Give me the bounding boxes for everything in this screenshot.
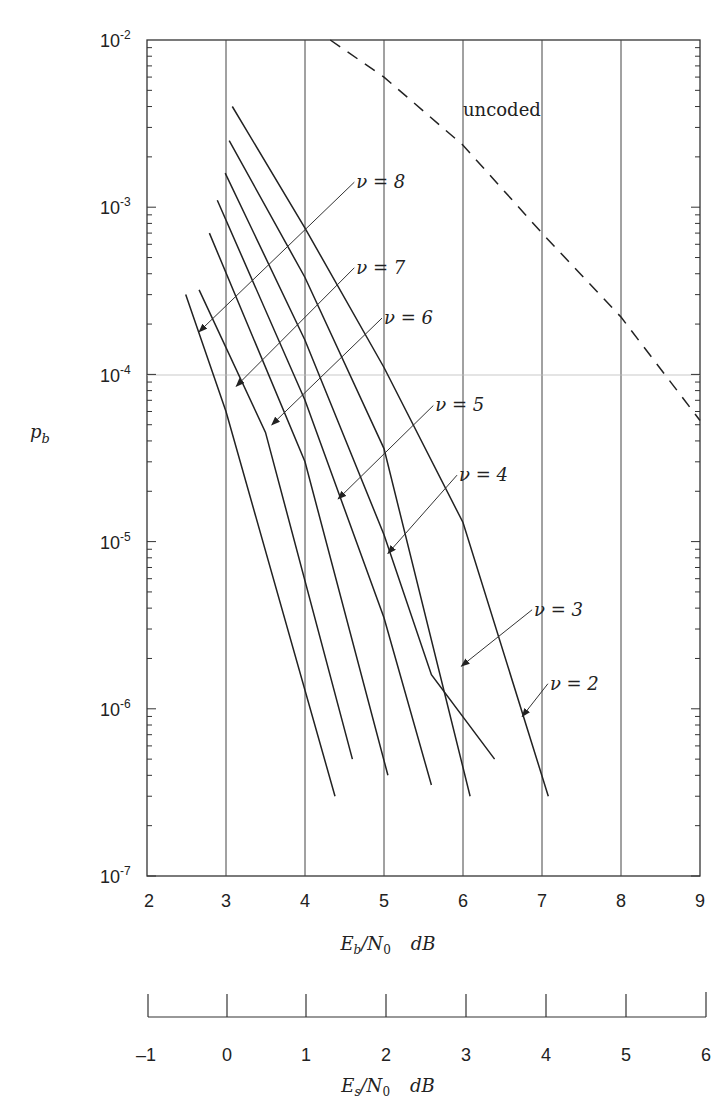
annotation-label: uncoded bbox=[463, 99, 541, 120]
svg-text:8: 8 bbox=[616, 891, 626, 911]
y-tick-labels: 10-2 10-3 10-4 10-5 10-6 10-7 bbox=[100, 28, 131, 887]
annotation-label: ν = 3 bbox=[534, 599, 583, 620]
svg-text:6: 6 bbox=[701, 1045, 711, 1065]
svg-text:5: 5 bbox=[621, 1045, 631, 1065]
curve-annotations: uncodedν = 8ν = 7ν = 6ν = 5ν = 4ν = 3ν =… bbox=[199, 99, 599, 716]
plot-frame bbox=[147, 40, 700, 876]
svg-text:3: 3 bbox=[461, 1045, 471, 1065]
series-curves bbox=[186, 40, 700, 796]
svg-text:7: 7 bbox=[537, 891, 547, 911]
svg-text:1: 1 bbox=[301, 1045, 311, 1065]
svg-text:4: 4 bbox=[300, 891, 310, 911]
svg-text:10-5: 10-5 bbox=[100, 530, 131, 553]
curve--6 bbox=[209, 233, 388, 775]
es-axis bbox=[148, 992, 706, 1017]
ber-chart: 10-2 10-3 10-4 10-5 10-6 10-7 2 3 4 5 6 … bbox=[0, 0, 725, 1115]
curve--3 bbox=[229, 141, 470, 797]
svg-text:2: 2 bbox=[144, 891, 154, 911]
svg-text:10-4: 10-4 bbox=[100, 363, 131, 386]
curve--8 bbox=[186, 295, 335, 797]
annotation-arrow bbox=[461, 610, 532, 666]
svg-text:–1: –1 bbox=[136, 1045, 156, 1065]
svg-text:0: 0 bbox=[222, 1045, 232, 1065]
svg-text:4: 4 bbox=[541, 1045, 551, 1065]
annotation-label: ν = 2 bbox=[550, 673, 599, 694]
y-axis-label: pb bbox=[30, 421, 50, 446]
y-minor-ticks bbox=[147, 48, 700, 876]
svg-text:3: 3 bbox=[221, 891, 231, 911]
annotation-arrow bbox=[338, 405, 433, 498]
annotation-arrow bbox=[199, 182, 354, 332]
curve--7 bbox=[199, 290, 352, 759]
annotation-arrow bbox=[522, 684, 548, 717]
annotation-label: ν = 8 bbox=[356, 171, 405, 192]
annotation-arrow bbox=[388, 475, 457, 553]
svg-text:10-3: 10-3 bbox=[100, 195, 131, 218]
annotation-label: ν = 7 bbox=[356, 257, 405, 278]
annotation-label: ν = 6 bbox=[384, 307, 433, 328]
curve-uncoded bbox=[330, 40, 700, 421]
annotation-label: ν = 4 bbox=[459, 464, 508, 485]
es-tick-labels: –1 0 1 2 3 4 5 6 bbox=[136, 1045, 711, 1065]
curve--2 bbox=[232, 107, 548, 797]
x-axis-label-es: Es/N0dB bbox=[340, 1075, 435, 1099]
svg-text:5: 5 bbox=[379, 891, 389, 911]
svg-text:10-2: 10-2 bbox=[100, 28, 131, 51]
annotation-label: ν = 5 bbox=[435, 394, 484, 415]
vertical-gridlines bbox=[226, 40, 621, 876]
svg-text:9: 9 bbox=[695, 891, 705, 911]
x-tick-labels: 2 3 4 5 6 7 8 9 bbox=[144, 891, 705, 911]
svg-text:10-6: 10-6 bbox=[100, 697, 131, 720]
x-axis-label-eb: Eb/N0dB bbox=[339, 933, 435, 957]
svg-text:6: 6 bbox=[458, 891, 468, 911]
svg-text:10-7: 10-7 bbox=[100, 864, 131, 887]
svg-text:2: 2 bbox=[381, 1045, 391, 1065]
